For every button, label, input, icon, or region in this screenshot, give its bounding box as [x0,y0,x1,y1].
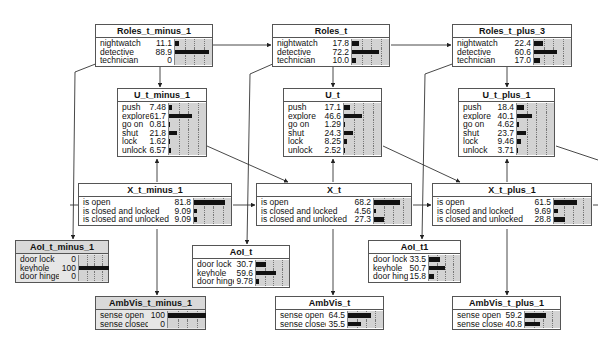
gridline [375,311,376,320]
node-title: Roles_t_plus_3 [453,25,571,38]
state-label: sense open [96,311,147,320]
state-label: lock [459,137,494,146]
gridline [179,146,180,155]
state-probability: 9.09 [171,215,193,224]
node-roles-t-minus-1[interactable]: Roles_t_minus_1nightwatch11.1detective88… [95,24,213,67]
state-row[interactable]: door hinge0 [16,272,108,281]
state-row[interactable]: sense closed40.8 [453,320,560,329]
state-row[interactable]: is closed and unlocked27.3 [257,215,411,224]
node-states: push17.1explore46.6go on1.29shut24.3lock… [284,102,381,156]
gridline [393,207,394,216]
state-row[interactable]: sense open100 [96,311,205,320]
node-aoi-t[interactable]: AoI_tdoor lock30.7keyhole59.6door hinge9… [192,245,290,288]
node-aoi-t1[interactable]: AoI_t1door lock33.5keyhole50.7door hinge… [368,240,461,283]
gridline [373,103,374,112]
state-label: explore [459,112,494,121]
gridline [546,120,547,129]
state-row[interactable]: nightwatch11.1 [96,39,212,48]
state-label: technician [96,56,148,65]
probability-bar-cell [553,207,591,216]
state-row[interactable]: is closed and locked9.09 [79,207,231,216]
probability-bar-cell [516,129,554,138]
probability-bar-cell [168,129,206,138]
state-label: is closed and unlocked [433,215,531,224]
state-row[interactable]: nightwatch17.8 [273,39,389,48]
state-row[interactable]: is closed and locked9.69 [433,207,591,216]
state-probability: 28.8 [531,215,553,224]
probability-bar-cell [343,103,381,112]
node-ambvis-t-plus-1[interactable]: AmbVis_t_plus_1sense open59.2sense close… [452,296,561,330]
state-row[interactable]: is closed and unlocked9.09 [79,215,231,224]
gridline [543,320,544,329]
state-label: keyhole [193,269,233,278]
state-label: shut [284,129,321,138]
probability-bar [194,217,197,222]
state-row[interactable]: detective88.9 [96,48,212,57]
node-x-t-plus-1[interactable]: X_t_plus_1is open61.5is closed and locke… [432,183,592,226]
gridline [546,112,547,121]
gridline [354,103,355,112]
state-row[interactable]: is closed and locked4.56 [257,207,411,216]
node-u-t-plus-1[interactable]: U_t_plus_1push18.4explore40.1go on4.62sh… [458,88,555,157]
probability-bar-cell [516,103,554,112]
gridline [188,146,189,155]
state-label: keyhole [369,264,406,273]
state-row[interactable]: door hinge9.78 [193,277,289,286]
state-label: explore [284,112,321,121]
state-row[interactable]: unlock6.57 [118,146,206,155]
probability-bar [374,200,400,205]
node-ambvis-t[interactable]: AmbVis_tsense open64.5sense closed35.5 [275,296,384,330]
state-row[interactable]: detective60.6 [453,48,571,57]
state-row[interactable]: unlock3.71 [459,146,554,155]
state-row[interactable]: detective72.2 [273,48,389,57]
state-label: is closed and unlocked [257,215,351,224]
state-label: go on [118,120,148,129]
probability-bar-cell [428,255,460,264]
node-u-t[interactable]: U_tpush17.1explore46.6go on1.29shut24.3l… [283,88,382,157]
state-row[interactable]: technician0 [96,56,212,65]
gridline [381,48,382,57]
state-row[interactable]: door hinge15.8 [369,272,460,281]
state-label: unlock [284,146,321,155]
state-row[interactable]: is open61.5 [433,198,591,207]
state-row[interactable]: technician10.0 [273,56,389,65]
probability-bar [352,50,379,55]
state-row[interactable]: unlock2.52 [284,146,381,155]
node-ambvis-t-minus-1[interactable]: AmbVis_t_minus_1sense open100sense close… [95,296,206,330]
state-row[interactable]: nightwatch22.4 [453,39,571,48]
gridline [546,146,547,155]
node-x-t[interactable]: X_tis open68.2is closed and locked4.56is… [256,183,412,226]
node-states: sense open100sense closed0 [96,310,205,329]
node-roles-t-plus-3[interactable]: Roles_t_plus_3nightwatch22.4detective60.… [452,24,572,67]
state-row[interactable]: is closed and unlocked28.8 [433,215,591,224]
gridline [381,56,382,65]
state-row[interactable]: is open68.2 [257,198,411,207]
node-title: AoI_t1 [369,241,460,254]
state-label: is closed and locked [257,207,351,216]
gridline [527,129,528,138]
gridline [273,277,274,286]
state-label: shut [118,129,148,138]
state-probability: 9.78 [234,277,255,286]
node-title: AmbVis_t [276,297,383,310]
state-label: is open [257,198,351,207]
state-row[interactable]: technician17.0 [453,56,571,65]
state-row[interactable]: sense closed35.5 [276,320,383,329]
state-label: sense closed [276,320,326,329]
state-probability: 40.8 [503,320,524,329]
gridline [366,320,367,329]
probability-bar-cell [193,198,231,207]
state-row[interactable]: is open81.8 [79,198,231,207]
state-row[interactable]: sense closed0 [96,320,205,329]
state-row[interactable]: keyhole100 [16,264,108,273]
node-aoi-t-minus-1[interactable]: AoI_t_minus_1door lock0keyhole100door hi… [15,240,109,283]
probability-bar-cell [516,112,554,121]
probability-bar-cell [168,120,206,129]
gridline [362,56,363,65]
node-u-t-minus-1[interactable]: U_t_minus_1push7.48explore61.7go on0.81s… [117,88,207,157]
gridline [373,146,374,155]
node-x-t-minus-1[interactable]: X_t_minus_1is open81.8is closed and lock… [78,183,232,226]
node-roles-t[interactable]: Roles_tnightwatch17.8detective72.2techni… [272,24,390,67]
probability-bar-cell [78,264,108,273]
gridline [223,215,224,224]
